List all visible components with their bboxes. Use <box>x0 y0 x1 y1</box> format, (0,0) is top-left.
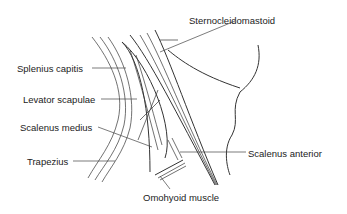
anatomy-diagram: Sternocleidomastoid Splenius capitis Lev… <box>0 0 347 214</box>
label-trapezius: Trapezius <box>27 157 68 167</box>
label-levator-scapulae: Levator scapulae <box>23 95 95 105</box>
label-scalenus-medius: Scalenus medius <box>20 123 92 133</box>
label-omohyoid-muscle: Omohyoid muscle <box>143 193 219 203</box>
neck-muscle-illustration <box>0 0 347 214</box>
label-sternocleidomastoid: Sternocleidomastoid <box>189 16 275 26</box>
label-scalenus-anterior: Scalenus anterior <box>248 149 322 159</box>
label-splenius-capitis: Splenius capitis <box>17 64 83 74</box>
